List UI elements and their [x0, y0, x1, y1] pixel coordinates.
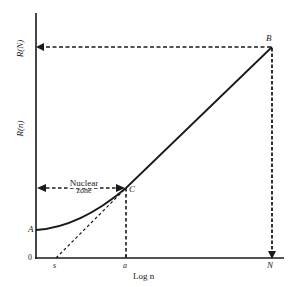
x-tick-s: s — [53, 262, 56, 270]
y-label-r-small-n: R(n) — [16, 119, 25, 139]
y-label-r-big-n: R(N) — [16, 37, 25, 61]
nuclear-zone-arrow-left-head — [37, 184, 46, 192]
x-tick-n: N — [267, 261, 273, 270]
nuclear-zone-label-line2: zone — [62, 187, 106, 195]
x-tick-a: a — [123, 262, 127, 270]
point-c-label: C — [129, 185, 135, 194]
log-plot-diagram: R(N) R(n) B C A 0 s a N Log n Nuclear zo… — [0, 0, 295, 287]
origin-label: 0 — [28, 254, 32, 262]
x-axis-label: Log n — [133, 272, 154, 281]
diagram-lines — [0, 0, 295, 287]
nuclear-zone-label: Nuclear zone — [62, 179, 106, 195]
point-a-label: A — [28, 225, 34, 234]
point-b-label: B — [266, 34, 272, 43]
x-axis-label-text: Log n — [133, 271, 154, 281]
growth-curve — [36, 47, 272, 230]
